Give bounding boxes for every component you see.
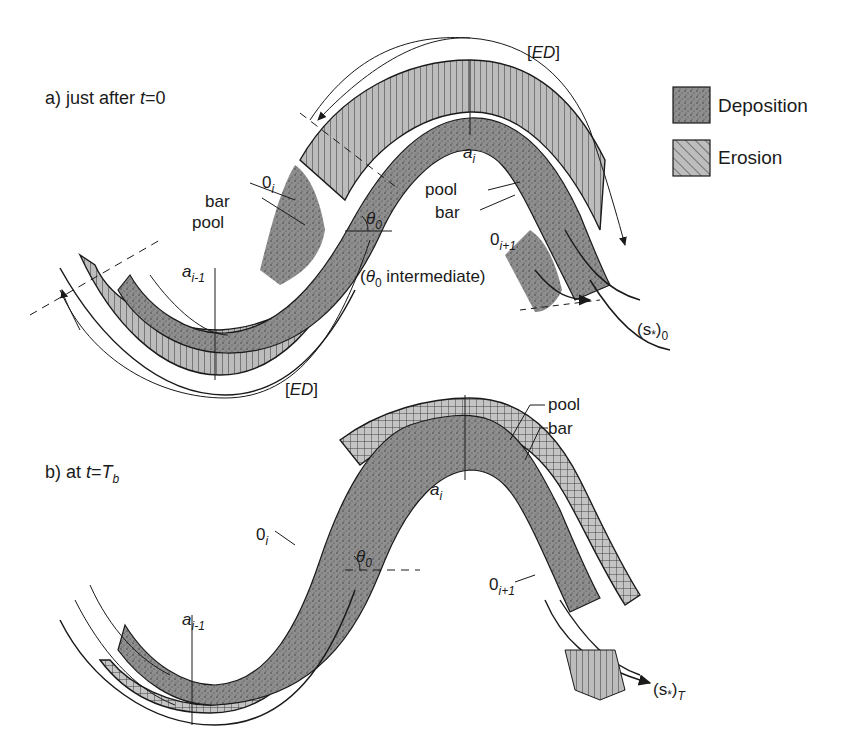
legend-deposition-label: Deposition: [718, 95, 808, 116]
panel-a-title: a) just after t=0: [45, 88, 166, 108]
erosion-swatch: [673, 140, 710, 176]
a-i-label-b: ai: [430, 480, 442, 503]
pool-label-left: pool: [192, 213, 224, 232]
o-ip1-label-b: 0i+1: [489, 575, 515, 598]
pool-label-right: pool: [425, 180, 457, 199]
o-i-label: 0i: [262, 173, 274, 196]
o-ip1-label: 0i+1: [490, 230, 516, 253]
meander-diagram: a) just after t=0 [ED] [ED] ai ai-1 0i 0…: [0, 0, 861, 753]
o-i-label-b: 0i: [256, 525, 268, 548]
panel-b: [60, 395, 650, 725]
ed-label-bottom: [ED]: [285, 380, 318, 399]
bar-label-left: bar: [205, 192, 230, 211]
erosion-patch-b: [565, 650, 625, 700]
a-im1-label: ai-1: [182, 262, 205, 285]
pool-label-b: pool: [548, 395, 580, 414]
theta-intermediate-note: (θ0 intermediate): [360, 267, 486, 290]
ed-label-top: [ED]: [527, 43, 560, 62]
legend-erosion-label: Erosion: [718, 147, 782, 168]
s-star-T-label: (s*)T: [653, 680, 687, 703]
bar-label-right: bar: [435, 203, 460, 222]
deposition-swatch: [673, 87, 710, 123]
a-im1-label-b: ai-1: [182, 610, 205, 633]
panel-b-title: b) at t=Tb: [45, 462, 120, 486]
bar-label-b: bar: [548, 419, 573, 438]
legend: Deposition Erosion: [673, 87, 808, 176]
